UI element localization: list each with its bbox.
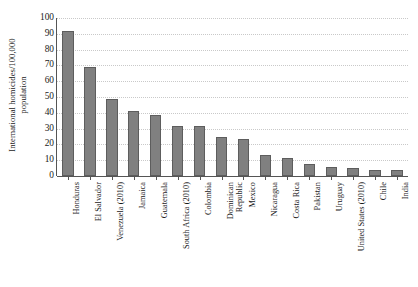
x-axis-tick — [375, 176, 376, 180]
bar — [84, 67, 95, 176]
bars-layer — [57, 18, 408, 176]
y-axis-title-line-2: population — [18, 38, 29, 151]
x-axis-category-label-line: El Salvador — [94, 182, 103, 221]
x-axis-tick — [200, 176, 201, 180]
y-axis-tick-label: 30 — [30, 124, 54, 133]
x-axis-category-label: India — [401, 181, 418, 287]
bar — [150, 115, 161, 176]
y-axis-tick-label: 70 — [30, 61, 54, 70]
x-axis-category-label-line: Costa Rica — [292, 182, 301, 219]
x-axis-category-label-line: Guatemala — [160, 182, 169, 218]
y-axis-tick-labels: 0102030405060708090100 — [30, 0, 54, 190]
x-axis-tick — [331, 176, 332, 180]
y-axis-tick-label: 20 — [30, 140, 54, 149]
x-axis-tick — [222, 176, 223, 180]
bar — [216, 137, 227, 177]
x-axis-category-label-line: Honduras — [72, 182, 81, 215]
bar — [326, 167, 337, 176]
bar — [304, 164, 315, 176]
x-axis-tick — [243, 176, 244, 180]
y-axis-title-line-1: International homicides/100,000 — [7, 38, 18, 151]
x-axis-category-label-line: South Africa (2010) — [182, 182, 191, 249]
y-axis-tick-label: 90 — [30, 29, 54, 38]
bar — [128, 111, 139, 176]
plot-area — [57, 18, 408, 176]
y-axis-tick-label: 80 — [30, 45, 54, 54]
x-axis-tick — [353, 176, 354, 180]
x-axis-category-label-line: Colombia — [204, 182, 213, 215]
bar-chart-figure: International homicides/100,000 populati… — [0, 0, 418, 287]
bar — [62, 31, 73, 176]
x-axis-category-label-line: United States (2010) — [357, 182, 366, 251]
bar — [260, 155, 271, 176]
x-axis-tick — [178, 176, 179, 180]
x-axis-tick — [265, 176, 266, 180]
x-axis-category-label-line: Pakistan — [313, 182, 322, 210]
x-axis-tick — [397, 176, 398, 180]
bar — [347, 168, 358, 176]
bar — [172, 126, 183, 176]
bar — [282, 158, 293, 176]
x-axis-tick — [309, 176, 310, 180]
x-axis-tick — [90, 176, 91, 180]
y-axis-tick-label: 50 — [30, 92, 54, 101]
x-axis-ticks — [57, 176, 408, 180]
x-axis-tick — [156, 176, 157, 180]
x-axis-category-labels: HondurasEl SalvadorVenezuela (2010)Jamai… — [57, 181, 408, 287]
x-axis-category-label-line: Chile — [379, 182, 388, 200]
x-axis-category-label-line: Dominican — [226, 182, 235, 219]
x-axis-category-label-line: Republic — [235, 182, 244, 219]
x-axis-tick — [68, 176, 69, 180]
y-axis-tick-label: 100 — [30, 13, 54, 22]
x-axis-tick — [287, 176, 288, 180]
bar — [106, 99, 117, 176]
y-axis-tick-label: 40 — [30, 108, 54, 117]
x-axis-tick — [134, 176, 135, 180]
x-axis-category-label-line: Nicaragua — [270, 182, 279, 216]
bar — [194, 126, 205, 176]
x-axis-category-label-line: Venezuela (2010) — [116, 182, 125, 241]
y-axis-tick-label: 10 — [30, 155, 54, 164]
x-axis-category-label-line: Uruguay — [335, 182, 344, 211]
x-axis-category-label-line: India — [401, 182, 410, 199]
x-axis-category-label-line: Jamaica — [138, 182, 147, 209]
y-axis-tick-label: 60 — [30, 76, 54, 85]
y-axis-tick-label: 0 — [30, 171, 54, 180]
bar — [238, 139, 249, 176]
x-axis-category-label-line: Mexico — [248, 182, 257, 208]
x-axis-tick — [112, 176, 113, 180]
